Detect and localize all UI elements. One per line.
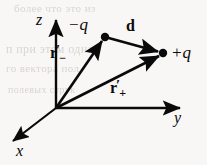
x-axis [13, 108, 56, 141]
r-plus-vector-arrow [56, 56, 159, 108]
r-minus-subscript: − [59, 51, 66, 65]
positive-charge-point [159, 49, 167, 57]
z-axis-label: z [36, 12, 42, 28]
vector-graphics [0, 0, 207, 165]
dipole-coordinate-diagram: более что это изп при этом однаго вектор… [0, 0, 207, 165]
d-vector-label: d [126, 18, 135, 34]
negative-charge-point [101, 33, 109, 41]
y-axis-label: y [174, 110, 181, 126]
x-axis-label: x [16, 143, 23, 159]
positive-charge-label: +q [171, 44, 191, 61]
r-plus-vector-label: r′+ [110, 80, 128, 96]
r-minus-vector-label: r′− [50, 45, 68, 61]
d-base: d [126, 17, 135, 34]
r-plus-subscript: + [119, 86, 126, 100]
negative-charge-label: −q [68, 16, 88, 33]
d-vector-arrow [105, 37, 158, 52]
